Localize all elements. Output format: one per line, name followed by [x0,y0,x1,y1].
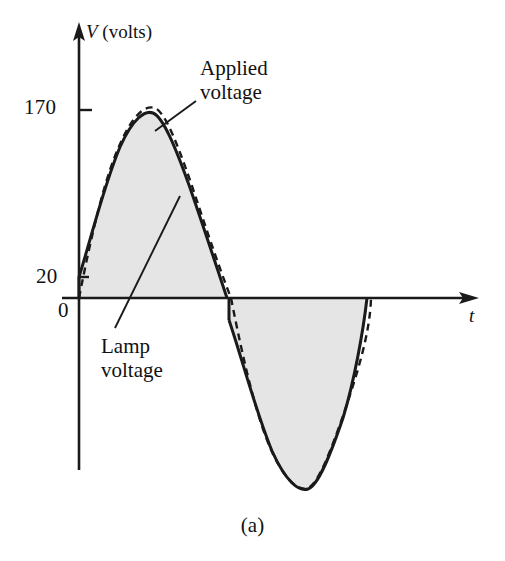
lamp-voltage-annotation-line2: voltage [101,358,163,382]
lamp-voltage-annotation: Lampvoltage [101,335,163,382]
y-tick-label-170: 170 [24,97,56,119]
panel-caption: (a) [0,515,505,537]
y-axis-unit: (volts) [98,21,152,42]
lamp-voltage-annotation-line1: Lamp [101,334,150,358]
x-axis-label: t [469,306,474,326]
y-tick-label-20: 20 [36,266,57,288]
applied-voltage-annotation: Appliedvoltage [200,57,268,104]
applied-voltage-annotation-line1: Applied [200,56,268,80]
y-axis-label: V (volts) [86,22,152,42]
applied-voltage-annotation-line2: voltage [200,80,262,104]
applied-voltage-leader-line [155,101,196,131]
figure-container: V (volts) 170 20 0 t Appliedvoltage Lamp… [0,0,505,561]
y-axis-symbol: V [86,21,98,42]
origin-label: 0 [58,300,69,322]
